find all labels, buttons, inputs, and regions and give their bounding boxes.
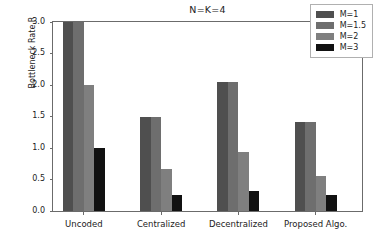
y-axis-tick-mark xyxy=(50,211,53,212)
legend-swatch-icon xyxy=(316,33,334,40)
bar-M1-uncoded xyxy=(63,22,74,211)
legend-item: M=2 xyxy=(316,31,366,42)
bar-M15-centralized xyxy=(151,117,162,212)
legend-label: M=2 xyxy=(340,31,359,42)
legend-label: M=3 xyxy=(340,42,359,53)
chart-legend: M=1M=1.5M=2M=3 xyxy=(310,4,373,58)
bar-M15-proposedalgo xyxy=(305,122,316,211)
x-axis-tick-label: Proposed Algo. xyxy=(256,219,376,229)
y-axis-tick-mark xyxy=(50,148,53,149)
legend-swatch-icon xyxy=(316,44,334,51)
x-axis-tick-mark xyxy=(83,212,84,215)
bar-M3-proposedalgo xyxy=(326,195,337,211)
bar-M1-proposedalgo xyxy=(295,122,306,211)
bar-M2-decentralized xyxy=(238,152,249,211)
y-axis-tick-label: 2.5 xyxy=(32,48,45,57)
bar-M15-decentralized xyxy=(228,82,239,211)
y-axis-tick-mark xyxy=(50,85,53,86)
y-axis-tick-label: 1.5 xyxy=(32,111,45,120)
legend-item: M=1.5 xyxy=(316,20,366,31)
bar-M3-uncoded xyxy=(94,148,105,211)
legend-label: M=1.5 xyxy=(340,20,366,31)
y-axis-tick-label: 0.5 xyxy=(32,174,45,183)
legend-swatch-icon xyxy=(316,11,334,18)
y-axis-tick-mark xyxy=(50,22,53,23)
y-axis-tick-mark xyxy=(50,53,53,54)
legend-swatch-icon xyxy=(316,22,334,29)
legend-item: M=3 xyxy=(316,42,366,53)
y-axis-tick-label: 3.0 xyxy=(32,17,45,26)
y-axis-tick-label: 0.0 xyxy=(32,206,45,215)
x-axis-tick-mark xyxy=(238,212,239,215)
legend-item: M=1 xyxy=(316,9,366,20)
bar-M3-centralized xyxy=(172,195,183,211)
x-axis-tick-mark xyxy=(315,212,316,215)
bar-M1-centralized xyxy=(140,117,151,212)
legend-label: M=1 xyxy=(340,9,359,20)
y-axis-tick-label: 2.0 xyxy=(32,80,45,89)
y-axis-tick-label: 1.0 xyxy=(32,143,45,152)
bar-M2-centralized xyxy=(161,169,172,211)
bar-M2-proposedalgo xyxy=(316,176,327,211)
x-axis-tick-mark xyxy=(161,212,162,215)
bar-M2-uncoded xyxy=(84,85,95,211)
bar-M1-decentralized xyxy=(217,82,228,211)
y-axis-tick-mark xyxy=(50,179,53,180)
y-axis-tick-mark xyxy=(50,116,53,117)
bar-M15-uncoded xyxy=(73,22,84,211)
bar-M3-decentralized xyxy=(249,191,260,211)
chart-figure: N=K=4 Bottleneck Rate,R 0.00.51.01.52.02… xyxy=(0,0,377,245)
